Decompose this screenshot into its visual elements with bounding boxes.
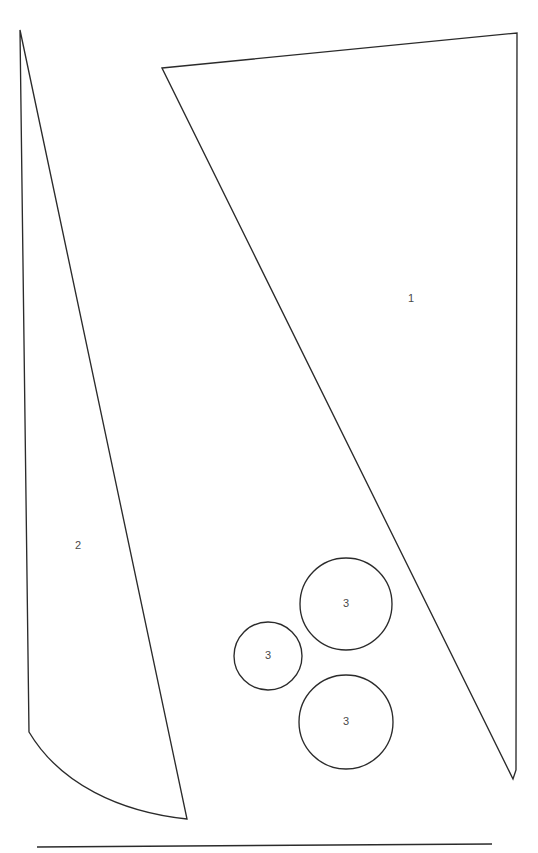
diagram-svg: 1 2 3 3 3 (0, 0, 538, 853)
baseline-rule (37, 844, 492, 847)
circle-3-upper-label: 3 (343, 597, 349, 609)
circle-3-small-label: 3 (265, 649, 271, 661)
circle-3-lower-label: 3 (343, 715, 349, 727)
diagram-canvas: 1 2 3 3 3 (0, 0, 538, 853)
region-1-outline[interactable] (162, 33, 517, 779)
region-1-label: 1 (408, 292, 414, 304)
region-2-label: 2 (75, 539, 81, 551)
region-2-outline[interactable] (20, 30, 187, 819)
